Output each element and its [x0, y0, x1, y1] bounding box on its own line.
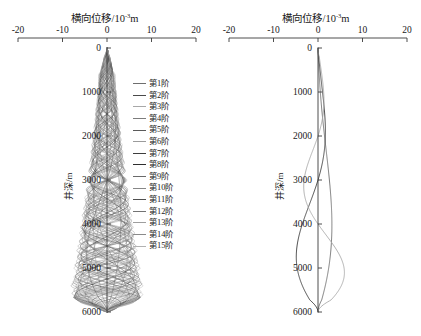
legend-swatch-line-icon — [133, 118, 146, 119]
x-tick-label: 0 — [316, 25, 321, 35]
legend-item[interactable]: 第7阶 — [133, 148, 173, 160]
legend-swatch-line-icon — [133, 222, 146, 223]
legend-swatch-line-icon — [133, 83, 146, 84]
legend-item[interactable]: 第11阶 — [133, 194, 173, 206]
y-tick-label: 0 — [307, 43, 312, 53]
legend-item-label: 第3阶 — [149, 101, 169, 113]
legend-item-label: 第6阶 — [149, 136, 169, 148]
first-3-modes-panel: 横向位移/10-3m -20-1001020010002000300040005… — [211, 0, 421, 336]
legend-item[interactable]: 第1阶 — [133, 78, 173, 90]
first-15-modes-panel: 横向位移/10-3m -20-1001020010002000300040005… — [0, 0, 210, 336]
legend-item[interactable]: 第13阶 — [133, 217, 173, 229]
y-tick-label: 3000 — [293, 175, 312, 185]
legend-item-label: 第7阶 — [149, 148, 169, 160]
legend-left: 第1阶第2阶第3阶第4阶第5阶第6阶第7阶第8阶第9阶第10阶第11阶第12阶第… — [133, 78, 173, 252]
x-tick-label: -20 — [12, 25, 25, 35]
legend-item[interactable]: 第9阶 — [133, 171, 173, 183]
x-tick-label: 0 — [105, 25, 110, 35]
right-plot-area: -20-10010200100020003000400050006000 — [211, 0, 421, 336]
legend-item-label: 第10阶 — [149, 182, 173, 194]
legend-item-label: 第12阶 — [149, 206, 173, 218]
legend-swatch-line-icon — [133, 246, 146, 247]
legend-item[interactable]: 第15阶 — [133, 240, 173, 252]
legend-swatch-line-icon — [133, 176, 146, 177]
x-tick-label: -10 — [56, 25, 69, 35]
legend-item-label: 第5阶 — [149, 124, 169, 136]
y-axis-label-right: 井深/m — [273, 172, 286, 200]
legend-swatch-line-icon — [133, 164, 146, 165]
legend-item-label: 第14阶 — [149, 229, 173, 241]
y-tick-label: 2000 — [82, 131, 101, 141]
legend-item[interactable]: 第3阶 — [133, 101, 173, 113]
legend-item-label: 第1阶 — [149, 78, 169, 90]
y-tick-label: 5000 — [293, 263, 312, 273]
legend-swatch-line-icon — [133, 106, 146, 107]
legend-swatch-line-icon — [133, 95, 146, 96]
x-tick-label: 20 — [191, 25, 201, 35]
y-tick-label: 1000 — [293, 87, 312, 97]
legend-item-label: 第8阶 — [149, 159, 169, 171]
legend-item[interactable]: 第10阶 — [133, 182, 173, 194]
left-plot-area: -20-10010200100020003000400050006000 — [0, 0, 210, 336]
legend-item-label: 第9阶 — [149, 171, 169, 183]
y-tick-label: 0 — [96, 43, 101, 53]
legend-item[interactable]: 第14阶 — [133, 229, 173, 241]
legend-swatch-line-icon — [133, 188, 146, 189]
legend-swatch-line-icon — [133, 130, 146, 131]
y-tick-label: 1000 — [82, 87, 101, 97]
y-tick-label: 5000 — [82, 263, 101, 273]
x-tick-label: 10 — [147, 25, 157, 35]
legend-item[interactable]: 第12阶 — [133, 206, 173, 218]
x-tick-label: 20 — [402, 25, 412, 35]
y-tick-label: 4000 — [82, 219, 101, 229]
legend-item-label: 第11阶 — [149, 194, 173, 206]
y-axis-label-left: 井深/m — [62, 172, 75, 200]
legend-item[interactable]: 第6阶 — [133, 136, 173, 148]
y-tick-label: 6000 — [293, 307, 312, 317]
legend-item[interactable]: 第4阶 — [133, 113, 173, 125]
figure-canvas: 横向位移/10-3m -20-1001020010002000300040005… — [0, 0, 421, 336]
legend-item-label: 第15阶 — [149, 240, 173, 252]
legend-item-label: 第2阶 — [149, 90, 169, 102]
legend-swatch-line-icon — [133, 234, 146, 235]
x-tick-label: 10 — [358, 25, 368, 35]
legend-item[interactable]: 第5阶 — [133, 124, 173, 136]
legend-swatch-line-icon — [133, 199, 146, 200]
y-tick-label: 6000 — [82, 307, 101, 317]
legend-item-label: 第13阶 — [149, 217, 173, 229]
legend-swatch-line-icon — [133, 211, 146, 212]
y-tick-label: 4000 — [293, 219, 312, 229]
legend-item[interactable]: 第8阶 — [133, 159, 173, 171]
x-tick-label: -20 — [223, 25, 236, 35]
legend-item-label: 第4阶 — [149, 113, 169, 125]
y-tick-label: 2000 — [293, 131, 312, 141]
x-tick-label: -10 — [267, 25, 280, 35]
legend-item[interactable]: 第2阶 — [133, 90, 173, 102]
y-tick-label: 3000 — [82, 175, 101, 185]
legend-swatch-line-icon — [133, 141, 146, 142]
legend-swatch-line-icon — [133, 153, 146, 154]
